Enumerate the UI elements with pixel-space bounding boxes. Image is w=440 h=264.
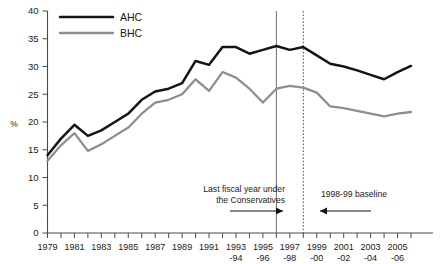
x-axis-tick-label-second-line: -94	[229, 253, 242, 263]
annotation-arrowhead-conservatives	[276, 208, 283, 215]
x-axis-tick-label-second-line: -02	[337, 253, 350, 263]
legend-label-bhc: BHC	[120, 27, 143, 39]
series-line-ahc	[48, 46, 412, 155]
x-axis-tick-label-second-line: -96	[256, 253, 269, 263]
x-axis-tick-label: 1993	[226, 242, 246, 252]
x-axis-tick-label: 1999	[307, 242, 327, 252]
x-axis-tick-label: 2001	[334, 242, 354, 252]
x-axis-tick-label-second-line: -06	[391, 253, 404, 263]
chart-container: 0510152025303540 19791981198319851987198…	[0, 0, 440, 264]
x-axis-tick-label: 1985	[118, 242, 138, 252]
legend-label-ahc: AHC	[120, 11, 143, 23]
x-axis-tick-label: 1995	[253, 242, 273, 252]
x-axis-tick-label-second-line: -00	[310, 253, 323, 263]
y-axis-tick-label: 0	[33, 227, 38, 238]
annotation-text-baseline: 1998-99 baseline	[321, 189, 387, 199]
annotation-text-conservatives: Last fiscal year under	[203, 184, 285, 194]
annotation-arrowhead-baseline	[320, 208, 327, 215]
y-axis-tick-label: 35	[28, 33, 39, 44]
x-axis-tick-label-second-line: -04	[364, 253, 377, 263]
y-axis-tick-label: 5	[33, 200, 38, 211]
x-axis-tick-label: 1979	[37, 242, 57, 252]
y-axis-tick-label: 20	[28, 116, 39, 127]
x-axis-tick-label: 1991	[199, 242, 219, 252]
annotation-text-conservatives-second-line: the Conservatives	[216, 195, 285, 205]
x-axis-ticks: 19791981198319851987198919911993-941995-…	[37, 233, 411, 263]
x-axis-tick-label: 1997	[280, 242, 300, 252]
y-axis-ticks: 0510152025303540	[28, 5, 48, 238]
x-axis-tick-label: 2003	[361, 242, 381, 252]
y-axis-title: %	[10, 119, 18, 129]
chart-legend: AHCBHC	[60, 11, 143, 39]
x-axis-tick-label-second-line: -98	[283, 253, 296, 263]
x-axis-tick-label: 1981	[64, 242, 84, 252]
x-axis-tick-label: 1983	[91, 242, 111, 252]
x-axis-tick-label: 1987	[145, 242, 165, 252]
y-axis-tick-label: 25	[28, 89, 39, 100]
x-axis-tick-label: 2005	[388, 242, 408, 252]
y-axis-tick-label: 40	[28, 5, 39, 16]
y-axis-tick-label: 15	[28, 144, 39, 155]
x-axis-tick-label: 1989	[172, 242, 192, 252]
y-axis-tick-label: 10	[28, 172, 39, 183]
data-series-group	[48, 46, 412, 161]
y-axis-tick-label: 30	[28, 61, 39, 72]
line-chart: 0510152025303540 19791981198319851987198…	[0, 0, 440, 264]
series-line-bhc	[48, 72, 412, 161]
chart-annotations: Last fiscal year underthe Conservatives1…	[203, 184, 387, 214]
